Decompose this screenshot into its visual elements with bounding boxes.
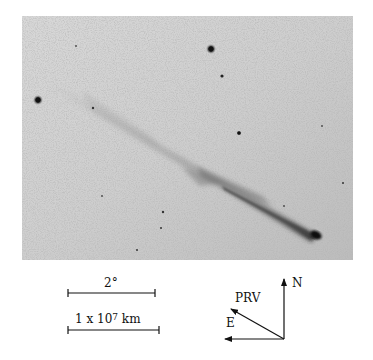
linear-scale-label: 1 x 107 km — [75, 313, 141, 325]
linear-scale-unit: km — [118, 312, 140, 326]
linear-scale-exponent: 7 — [112, 312, 118, 322]
east-label: E — [226, 317, 235, 329]
linear-scale-mantissa: 1 x 10 — [75, 312, 112, 326]
sky-background — [22, 16, 353, 260]
angular-scale-label: 2° — [104, 277, 118, 289]
north-label: N — [292, 277, 303, 289]
velocity-label: PRV — [235, 292, 260, 304]
comet-image-svg — [22, 16, 353, 260]
comet-photograph — [22, 16, 353, 260]
prv-arrow — [231, 309, 284, 339]
linear-scale-bar — [68, 326, 159, 334]
angular-scale-bar — [68, 289, 155, 297]
compass-rose — [225, 279, 284, 339]
